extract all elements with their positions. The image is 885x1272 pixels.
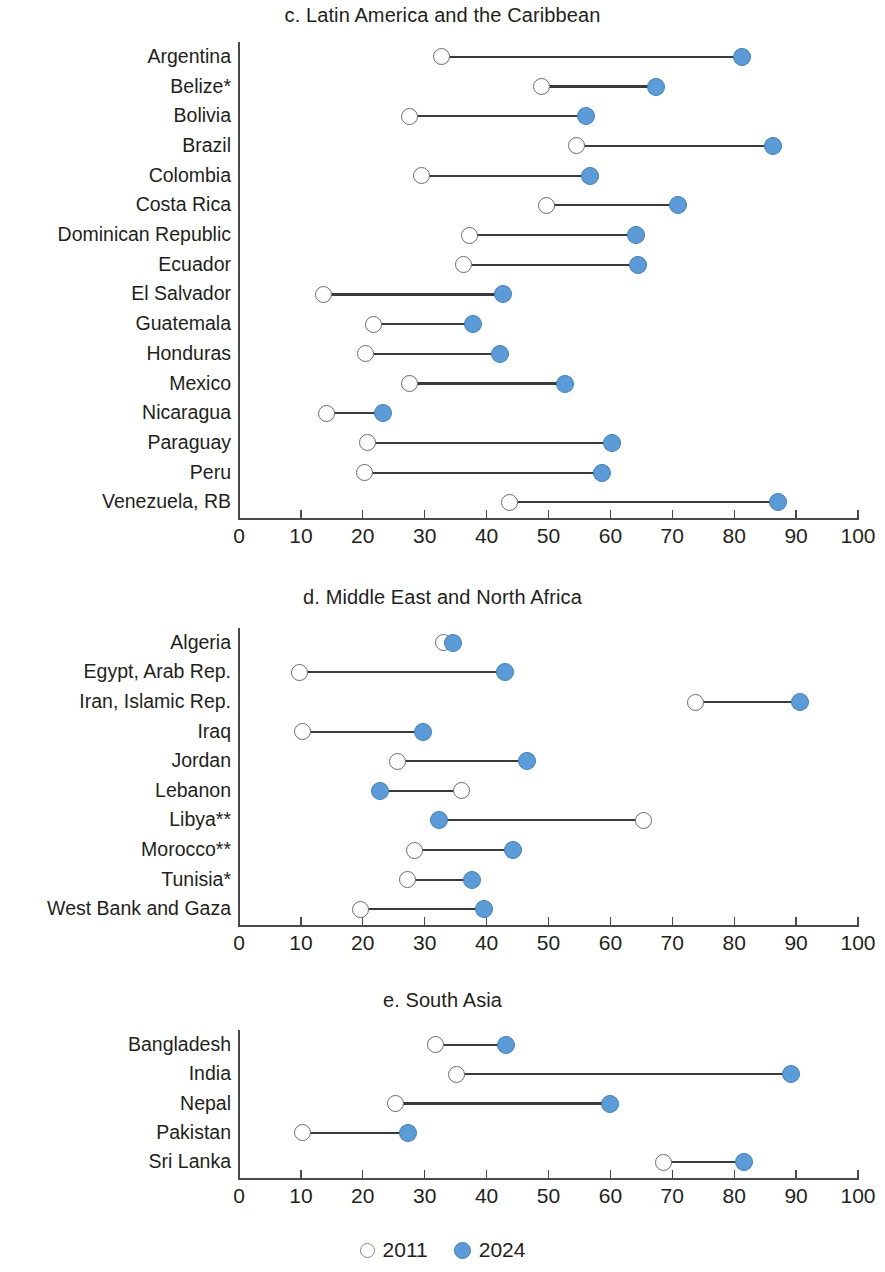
x-axis-tick-label: 100 — [828, 931, 885, 955]
x-axis-tick — [300, 1170, 301, 1178]
x-axis-tick-label: 80 — [704, 931, 764, 955]
x-axis-tick — [672, 917, 673, 925]
data-point-2024 — [430, 811, 448, 829]
category-label: Sri Lanka — [149, 1152, 231, 1172]
data-point-2011 — [352, 901, 369, 918]
dumbbell-connector — [367, 442, 612, 444]
category-label: Nepal — [180, 1094, 231, 1114]
data-point-2024 — [491, 345, 509, 363]
x-axis-tick — [362, 1170, 363, 1178]
category-label: Bolivia — [174, 106, 231, 126]
x-axis-tick-label: 70 — [642, 1184, 702, 1208]
x-axis-tick — [734, 1170, 735, 1178]
category-label: Colombia — [149, 166, 231, 186]
dumbbell-connector — [323, 293, 503, 295]
category-label: Tunisia* — [161, 870, 231, 890]
dumbbell-connector — [541, 85, 656, 87]
data-point-2011 — [406, 842, 423, 859]
data-point-2024 — [444, 634, 462, 652]
x-axis-tick-label: 20 — [333, 524, 393, 548]
dumbbell-connector — [360, 908, 484, 910]
data-point-2024 — [463, 871, 481, 889]
dumbbell-connector — [576, 145, 773, 147]
data-point-2024 — [464, 315, 482, 333]
x-axis-tick-label: 40 — [457, 931, 517, 955]
plot-area-c: 0102030405060708090100ArgentinaBelize*Bo… — [0, 0, 885, 560]
data-point-2011 — [401, 108, 418, 125]
category-label: West Bank and Gaza — [47, 899, 231, 919]
x-axis-tick-label: 70 — [642, 524, 702, 548]
category-label: Nicaragua — [142, 403, 231, 423]
data-point-2011 — [413, 167, 430, 184]
category-label: Iraq — [197, 722, 231, 742]
data-point-2024 — [769, 493, 787, 511]
x-axis-tick — [424, 917, 425, 925]
x-axis-tick-label: 90 — [766, 931, 826, 955]
x-axis-tick — [300, 917, 301, 925]
x-axis-tick-label: 80 — [704, 524, 764, 548]
x-axis-tick-label: 30 — [395, 1184, 455, 1208]
dumbbell-connector — [365, 353, 499, 355]
data-point-2011 — [427, 1036, 444, 1053]
data-point-2011 — [365, 316, 382, 333]
data-point-2011 — [461, 227, 478, 244]
category-label: Algeria — [170, 633, 231, 653]
data-point-2024 — [733, 48, 751, 66]
data-point-2024 — [627, 226, 645, 244]
category-label: Libya** — [169, 810, 231, 830]
category-label: Guatemala — [136, 314, 231, 334]
data-point-2024 — [669, 196, 687, 214]
dumbbell-connector — [409, 382, 564, 384]
data-point-2011 — [294, 723, 311, 740]
category-label: Honduras — [146, 344, 231, 364]
x-axis-line — [238, 925, 859, 927]
panel-south-asia: e. South Asia 0102030405060708090100Bang… — [0, 985, 885, 1220]
x-axis-tick — [548, 917, 549, 925]
dumbbell-connector — [510, 501, 778, 503]
panel-latin-america: c. Latin America and the Caribbean 01020… — [0, 0, 885, 560]
data-point-2011 — [359, 434, 376, 451]
x-axis-tick — [486, 510, 487, 518]
x-axis-tick — [857, 1170, 858, 1178]
x-axis-tick-label: 20 — [333, 931, 393, 955]
x-axis-tick-label: 50 — [519, 1184, 579, 1208]
category-label: El Salvador — [131, 284, 231, 304]
dumbbell-connector — [303, 1132, 408, 1134]
dumbbell-connector — [302, 731, 423, 733]
x-axis-tick — [424, 1170, 425, 1178]
x-axis-tick-label: 100 — [828, 1184, 885, 1208]
data-point-2024 — [593, 464, 611, 482]
data-point-2011 — [401, 375, 418, 392]
dumbbell-connector — [396, 1102, 611, 1104]
data-point-2024 — [496, 663, 514, 681]
legend-label-2011: 2011 — [383, 1238, 428, 1262]
x-axis-tick — [795, 510, 796, 518]
category-label: Lebanon — [155, 781, 231, 801]
category-label: Mexico — [169, 374, 231, 394]
x-axis-line — [238, 518, 859, 520]
open-circle-icon — [360, 1243, 375, 1258]
legend-label-2024: 2024 — [479, 1238, 526, 1262]
dumbbell-connector — [547, 204, 678, 206]
dumbbell-connector — [364, 472, 602, 474]
data-point-2011 — [635, 812, 652, 829]
legend-item-2024: 2024 — [454, 1238, 526, 1262]
x-axis-tick-label: 60 — [580, 931, 640, 955]
data-point-2011 — [399, 871, 416, 888]
category-label: Belize* — [170, 77, 231, 97]
x-axis-tick — [486, 917, 487, 925]
data-point-2024 — [399, 1124, 417, 1142]
dumbbell-connector — [441, 56, 742, 58]
data-point-2024 — [629, 256, 647, 274]
panel-middle-east: d. Middle East and North Africa 01020304… — [0, 578, 885, 953]
data-point-2024 — [577, 107, 595, 125]
category-label: Bangladesh — [128, 1035, 231, 1055]
filled-circle-icon — [454, 1242, 471, 1259]
figure-root: c. Latin America and the Caribbean 01020… — [0, 0, 885, 1272]
category-label: Jordan — [171, 751, 231, 771]
x-axis-tick — [734, 510, 735, 518]
plot-area-d: 0102030405060708090100AlgeriaEgypt, Arab… — [0, 578, 885, 953]
data-point-2024 — [504, 841, 522, 859]
data-point-2024 — [782, 1065, 800, 1083]
x-axis-tick — [610, 1170, 611, 1178]
